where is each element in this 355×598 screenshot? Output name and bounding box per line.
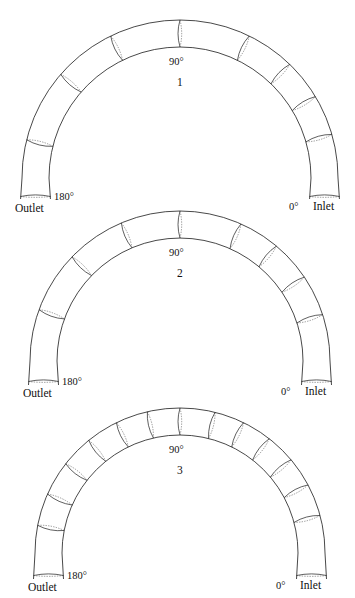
arch-2-drawing bbox=[0, 199, 355, 398]
arch-diagram-3: 90° 3 0° Inlet 180° Outlet bbox=[0, 398, 355, 597]
arch-1-drawing bbox=[0, 0, 355, 199]
arch-3-label-outlet: Outlet bbox=[28, 582, 57, 594]
arch-3-label-180deg: 180° bbox=[67, 571, 87, 582]
arch-2-label-number: 2 bbox=[177, 268, 183, 280]
arch-3-drawing bbox=[0, 398, 355, 597]
arch-diagram-2: 90° 2 0° Inlet 180° Outlet bbox=[0, 199, 355, 398]
arch-3-label-0deg: 0° bbox=[276, 581, 285, 592]
arch-2-label-0deg: 0° bbox=[281, 387, 290, 398]
arch-1-label-number: 1 bbox=[177, 77, 183, 89]
arch-1-label-90deg: 90° bbox=[169, 57, 184, 68]
arch-2-label-90deg: 90° bbox=[169, 248, 184, 259]
arch-2-label-180deg: 180° bbox=[62, 377, 82, 388]
arch-diagram-1: 90° 1 0° Inlet 180° Outlet bbox=[0, 0, 355, 199]
pipe-bend-figure: 90° 1 0° Inlet 180° Outlet 90° 2 0° Inle… bbox=[0, 0, 355, 598]
arch-3-label-inlet: Inlet bbox=[300, 580, 321, 592]
arch-3-label-number: 3 bbox=[177, 465, 183, 477]
arch-3-label-90deg: 90° bbox=[169, 445, 184, 456]
arch-2-label-inlet: Inlet bbox=[305, 386, 326, 398]
